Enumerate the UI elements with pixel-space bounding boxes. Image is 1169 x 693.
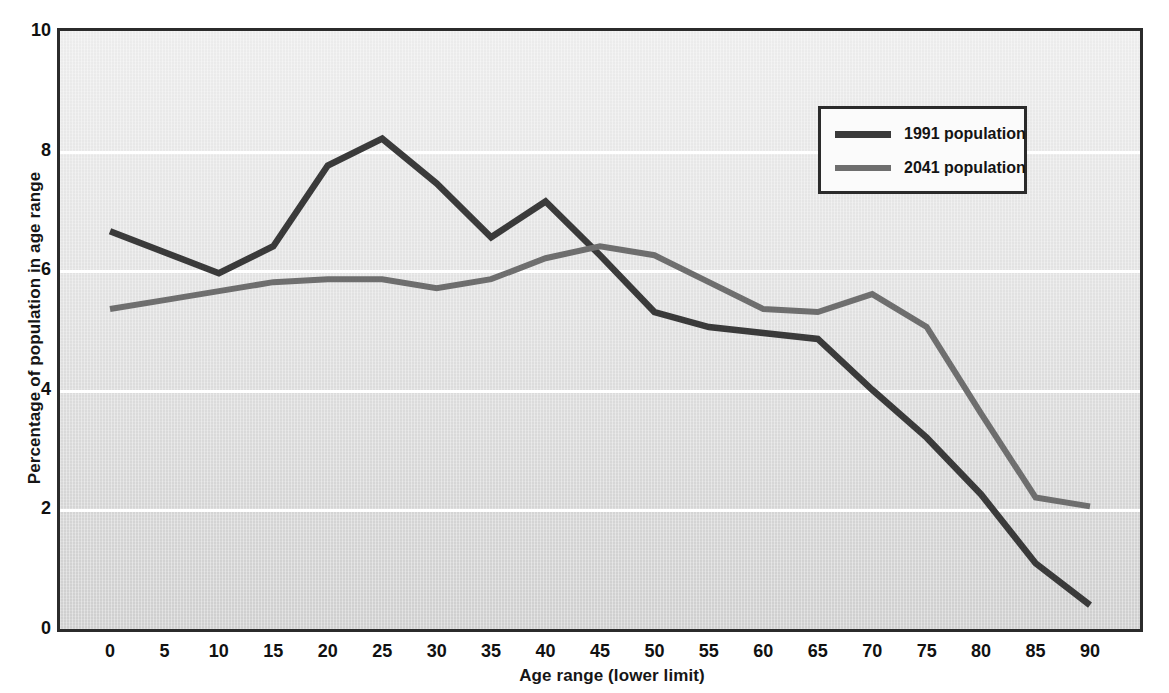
x-tick-60: 60: [735, 641, 791, 662]
legend-item-2041: 2041 population: [835, 156, 1026, 180]
x-tick-65: 65: [790, 641, 846, 662]
y-tick-6: 6: [7, 259, 51, 280]
y-tick-10: 10: [7, 20, 51, 41]
y-axis-title: Percentage of population in age range: [25, 113, 45, 543]
x-tick-55: 55: [681, 641, 737, 662]
y-tick-8: 8: [7, 140, 51, 161]
series-line-2041: [110, 246, 1090, 506]
x-tick-15: 15: [245, 641, 301, 662]
x-tick-45: 45: [572, 641, 628, 662]
x-tick-10: 10: [191, 641, 247, 662]
legend-label-1991: 1991 population: [904, 125, 1026, 143]
x-tick-20: 20: [300, 641, 356, 662]
legend-swatch-1991-icon: [835, 131, 891, 138]
population-age-distribution-chart: Percentage of population in age range 02…: [0, 0, 1169, 693]
x-axis-title: Age range (lower limit): [107, 666, 1117, 686]
series-line-1991: [110, 139, 1090, 605]
x-tick-70: 70: [844, 641, 900, 662]
x-tick-25: 25: [354, 641, 410, 662]
x-tick-0: 0: [82, 641, 138, 662]
y-tick-0: 0: [7, 618, 51, 639]
legend-label-2041: 2041 population: [904, 159, 1026, 177]
x-tick-40: 40: [518, 641, 574, 662]
legend-swatch-2041-icon: [835, 165, 891, 171]
x-tick-35: 35: [463, 641, 519, 662]
x-tick-30: 30: [409, 641, 465, 662]
x-tick-85: 85: [1008, 641, 1064, 662]
x-tick-75: 75: [899, 641, 955, 662]
y-tick-4: 4: [7, 379, 51, 400]
legend: 1991 population 2041 population: [818, 106, 1027, 194]
x-tick-90: 90: [1062, 641, 1118, 662]
x-tick-50: 50: [626, 641, 682, 662]
y-tick-2: 2: [7, 498, 51, 519]
x-tick-80: 80: [953, 641, 1009, 662]
legend-item-1991: 1991 population: [835, 122, 1026, 146]
x-tick-5: 5: [136, 641, 192, 662]
